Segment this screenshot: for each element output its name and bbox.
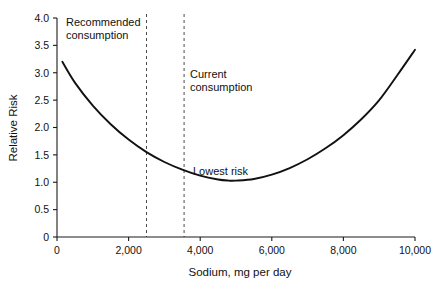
y-tick-label-3: 1.5 (34, 149, 49, 161)
y-tick-label-5: 2.5 (34, 94, 49, 106)
marker-lines-group (147, 14, 185, 237)
y-tick-label-8: 4.0 (34, 12, 49, 24)
x-tick-label-0: 0 (54, 244, 60, 256)
x-tick-label-4: 8,000 (330, 244, 356, 256)
y-tick-label-2: 1.0 (34, 176, 49, 188)
relative-risk-sodium-chart: 00.51.01.52.02.53.03.54.0 02,0004,0006,0… (0, 0, 442, 286)
x-tick-label-5: 10,000 (399, 244, 431, 256)
relative-risk-curve (62, 50, 415, 181)
x-tick-label-2: 4,000 (187, 244, 213, 256)
x-axis-ticks: 02,0004,0006,0008,00010,000 (54, 237, 431, 256)
y-tick-label-7: 3.5 (34, 39, 49, 51)
x-tick-label-1: 2,000 (115, 244, 141, 256)
y-tick-label-1: 0.5 (34, 203, 49, 215)
y-tick-label-6: 3.0 (34, 67, 49, 79)
x-axis-title: Sodium, mg per day (189, 266, 292, 278)
risk-curve-group (62, 50, 415, 181)
x-tick-label-3: 6,000 (259, 244, 285, 256)
lowest-risk-label: Lowest risk (193, 165, 249, 177)
recommended-consumption-label: Recommendedconsumption (66, 16, 141, 41)
y-tick-label-0: 0 (43, 231, 49, 243)
chart-figure: 00.51.01.52.02.53.03.54.0 02,0004,0006,0… (0, 0, 442, 286)
y-axis-title: Relative Risk (7, 94, 19, 161)
annotations-group: RecommendedconsumptionCurrentconsumption… (66, 16, 252, 177)
y-tick-label-4: 2.0 (34, 121, 49, 133)
axes-group (57, 18, 415, 237)
y-axis-ticks: 00.51.01.52.02.53.03.54.0 (34, 12, 57, 243)
current-consumption-label: Currentconsumption (190, 68, 252, 93)
